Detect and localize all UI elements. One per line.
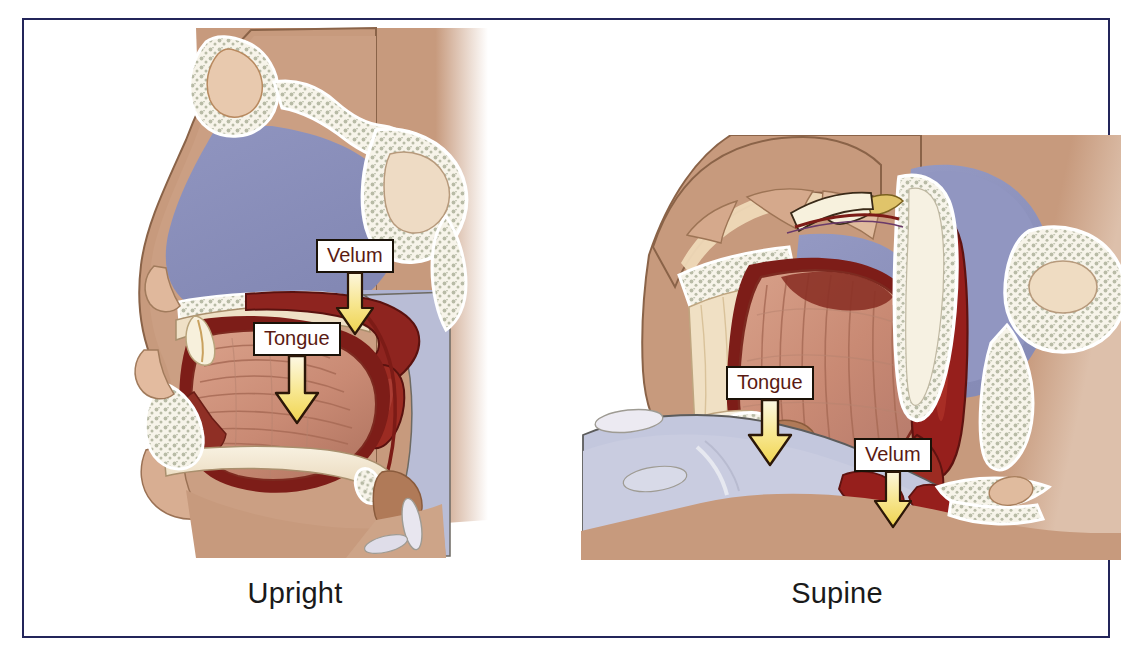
callout-tongue-upright[interactable]: Tongue	[253, 322, 341, 425]
down-arrow-icon	[873, 471, 913, 529]
supine-sagittal-svg	[581, 135, 1121, 560]
down-arrow-icon	[274, 355, 320, 425]
upright-anatomy-illustration	[46, 20, 488, 558]
supine-anatomy-illustration	[581, 135, 1121, 560]
down-arrow-icon	[335, 272, 375, 336]
callout-velum-supine-label: Velum	[854, 438, 932, 472]
callout-velum-upright-label: Velum	[316, 239, 394, 273]
caption-supine: Supine	[566, 577, 1108, 610]
caption-upright: Upright	[24, 577, 566, 610]
figure-frame: Velum Tongue	[22, 18, 1110, 638]
callout-tongue-supine[interactable]: Tongue	[726, 366, 814, 467]
callout-tongue-supine-label: Tongue	[726, 366, 814, 400]
panel-supine: Tongue Velum	[566, 20, 1108, 636]
upright-sagittal-svg	[46, 20, 488, 558]
down-arrow-icon	[747, 399, 793, 467]
callout-tongue-upright-label: Tongue	[253, 322, 341, 356]
panel-upright: Velum Tongue	[24, 20, 566, 636]
callout-velum-supine[interactable]: Velum	[854, 438, 932, 529]
